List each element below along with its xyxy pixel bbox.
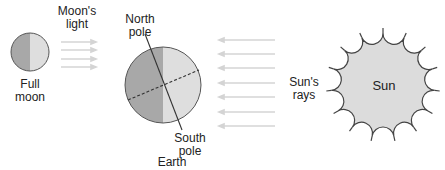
moon-light-label: Moon's light	[52, 5, 102, 31]
sun-ray-arrows	[219, 38, 275, 128]
sun-label: Sun	[362, 79, 406, 92]
earth-label: Earth	[150, 156, 194, 169]
full-moon	[11, 33, 49, 71]
sun-rays-label: Sun's rays	[284, 76, 324, 102]
full-moon-label: Full moon	[8, 78, 52, 104]
north-pole-label: North pole	[118, 13, 162, 39]
moon-light-arrows	[61, 40, 96, 69]
earth	[125, 34, 201, 130]
